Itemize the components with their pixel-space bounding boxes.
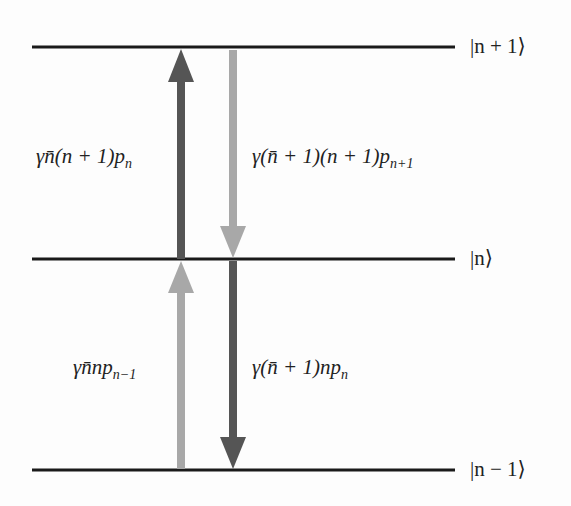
rate-text: γn̄np	[73, 355, 113, 379]
rate-subscript: n−1	[113, 367, 136, 382]
rate-subscript: n	[341, 367, 348, 382]
rate-subscript: n	[125, 156, 132, 171]
rate-label-emission-upper: γ(n̄ + 1)(n + 1)pn+1	[252, 144, 414, 172]
level-lines	[32, 47, 455, 470]
rate-text: γ(n̄ + 1)(n + 1)p	[252, 144, 390, 168]
rate-subscript: n+1	[390, 156, 413, 171]
rate-label-absorption-upper: γn̄(n + 1)pn	[36, 144, 132, 172]
ket-n-plus-1: |n + 1⟩	[470, 34, 526, 59]
rate-label-emission-lower: γ(n̄ + 1)npn	[252, 355, 348, 383]
rate-text: γn̄(n + 1)p	[36, 144, 125, 168]
ket-n: |n⟩	[470, 246, 493, 271]
rate-label-absorption-lower: γn̄npn−1	[73, 355, 136, 383]
rate-text: γ(n̄ + 1)np	[252, 355, 341, 379]
ket-n-minus-1: |n − 1⟩	[470, 457, 526, 482]
arrow-up-light-lower	[168, 261, 194, 469]
arrow-up-dark-upper	[168, 49, 194, 259]
arrow-down-dark-lower	[220, 261, 246, 469]
arrow-down-light-upper	[220, 50, 246, 258]
